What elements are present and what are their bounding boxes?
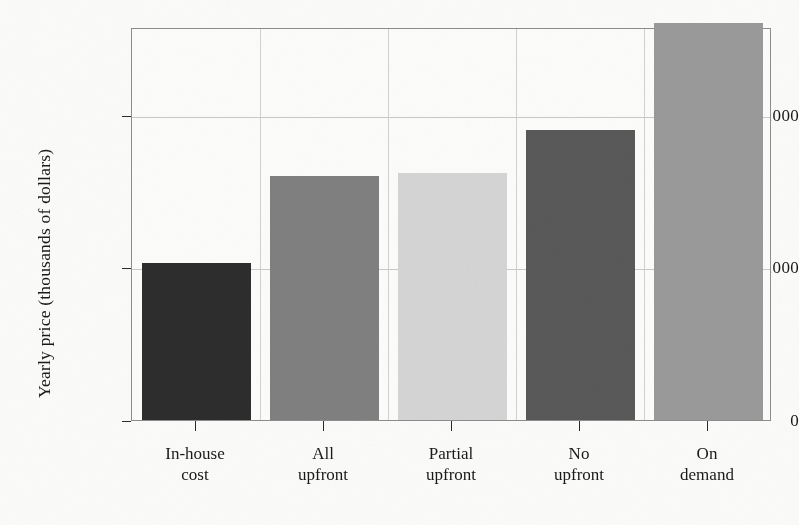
- x-tick-label: No upfront: [515, 443, 643, 486]
- plot-area: [131, 28, 771, 421]
- y-axis-title: Yearly price (thousands of dollars): [34, 38, 55, 398]
- x-tick-label: All upfront: [259, 443, 387, 486]
- x-tick-mark: [195, 421, 196, 431]
- bar-chart-figure: Yearly price (thousands of dollars) 01,0…: [0, 0, 799, 525]
- gridline-vertical: [644, 29, 645, 420]
- gridline-vertical: [516, 29, 517, 420]
- x-tick-label: In-house cost: [131, 443, 259, 486]
- y-tick-mark: [122, 421, 131, 422]
- gridline-vertical: [260, 29, 261, 420]
- bar: [654, 23, 763, 420]
- bar: [270, 176, 379, 420]
- x-tick-mark: [707, 421, 708, 431]
- x-tick-mark: [323, 421, 324, 431]
- y-tick-mark: [122, 116, 131, 117]
- x-tick-mark: [451, 421, 452, 431]
- x-tick-mark: [579, 421, 580, 431]
- bar: [142, 263, 251, 420]
- bar: [398, 173, 507, 420]
- gridline-vertical: [388, 29, 389, 420]
- y-tick-mark: [122, 268, 131, 269]
- x-tick-label: Partial upfront: [387, 443, 515, 486]
- bar: [526, 130, 635, 420]
- x-tick-label: On demand: [643, 443, 771, 486]
